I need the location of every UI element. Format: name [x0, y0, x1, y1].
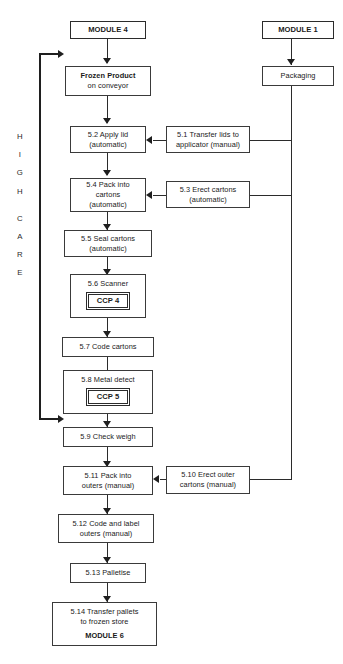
- arrow-left-icon: [146, 136, 152, 144]
- arrow-down-icon: [103, 170, 111, 176]
- node-5-1-transfer-lids[interactable]: 5.1 Transfer lids to applicator (manual): [166, 126, 250, 153]
- node-line: 5.10 Erect outer: [181, 470, 234, 480]
- arrow-down-icon: [103, 118, 111, 124]
- node-line: (automatic): [89, 244, 127, 254]
- zone-letter: C: [13, 210, 27, 228]
- node-line: (automatic): [189, 195, 227, 205]
- zone-label-high-care: H I G H C A R E: [13, 128, 27, 283]
- edge-spine-to-53: [250, 195, 292, 196]
- node-line: 5.2 Apply lid: [88, 130, 129, 140]
- arrow-left-icon: [146, 191, 152, 199]
- zone-letter: H: [13, 128, 27, 146]
- node-line: 5.3 Erect cartons: [180, 185, 237, 195]
- zone-letter-gap: [13, 201, 27, 210]
- zone-letter: E: [13, 264, 27, 282]
- node-line: 5.1 Transfer lids to: [177, 130, 239, 140]
- process-flow-diagram: H I G H C A R E MODULE 4 Frozen Product …: [0, 0, 343, 664]
- node-line: outers (manual): [82, 481, 135, 491]
- node-5-5-seal-cartons[interactable]: 5.5 Seal cartons (automatic): [64, 230, 152, 257]
- return-loop-top-arrow-icon: [58, 50, 64, 58]
- zone-letter: H: [13, 183, 27, 201]
- edge-spine-to-510: [250, 479, 292, 480]
- edge-510-to-511: [160, 479, 166, 480]
- node-line: 5.5 Seal cartons: [81, 234, 135, 244]
- edge-spine-to-51: [250, 140, 292, 141]
- node-line: Frozen Product: [81, 71, 136, 81]
- node-line: (automatic): [89, 200, 127, 210]
- ccp-5-label: CCP 5: [88, 390, 128, 404]
- zone-letter: R: [13, 246, 27, 264]
- node-5-13-palletise[interactable]: 5.13 Palletise: [70, 563, 146, 583]
- zone-letter: I: [13, 146, 27, 164]
- node-line: 5.7 Code cartons: [79, 342, 136, 352]
- node-line: applicator (manual): [176, 140, 240, 150]
- node-line: cartons (manual): [180, 480, 236, 490]
- node-frozen-product[interactable]: Frozen Product on conveyor: [65, 66, 151, 96]
- node-line: 5.11 Pack into: [85, 471, 132, 481]
- arrow-down-icon: [287, 59, 295, 65]
- return-loop-top-horizontal: [39, 53, 60, 55]
- return-loop-vertical: [39, 53, 41, 419]
- ccp-4-badge: CCP 4: [86, 292, 130, 310]
- node-5-3-erect-cartons[interactable]: 5.3 Erect cartons (automatic): [166, 181, 250, 208]
- node-line: 5.9 Check weigh: [80, 432, 135, 442]
- node-line: on conveyor: [88, 81, 129, 91]
- edge-53-to-54: [153, 195, 166, 196]
- node-line: MODULE 4: [88, 25, 128, 35]
- return-loop-bottom-arrow-icon: [58, 415, 64, 423]
- node-line: 5.8 Metal detect: [81, 375, 134, 385]
- node-line: 5.6 Scanner: [88, 279, 128, 289]
- node-line: 5.13 Palletise: [85, 568, 130, 578]
- node-5-6-scanner[interactable]: 5.6 Scanner CCP 4: [70, 274, 146, 318]
- node-5-4-pack-into-cartons[interactable]: 5.4 Pack into cartons (automatic): [70, 178, 146, 212]
- node-line: 5.14 Transfer pallets: [70, 607, 138, 617]
- node-line: MODULE 1: [278, 25, 318, 35]
- node-module-1[interactable]: MODULE 1: [262, 21, 334, 39]
- node-line-module-6: MODULE 6: [85, 631, 124, 641]
- node-packaging[interactable]: Packaging: [262, 66, 334, 86]
- zone-letter: G: [13, 164, 27, 182]
- node-5-11-pack-into-outers[interactable]: 5.11 Pack into outers (manual): [63, 466, 153, 495]
- node-line: to frozen store: [81, 617, 129, 627]
- node-5-10-erect-outer-cartons[interactable]: 5.10 Erect outer cartons (manual): [166, 466, 250, 494]
- node-5-12-code-and-label-outers[interactable]: 5.12 Code and label outers (manual): [58, 514, 154, 543]
- node-line: 5.12 Code and label: [72, 519, 139, 529]
- node-5-14-transfer-pallets[interactable]: 5.14 Transfer pallets to frozen store MO…: [52, 602, 157, 646]
- node-line: 5.4 Pack into: [86, 180, 129, 190]
- node-line: Packaging: [281, 71, 316, 81]
- ccp-5-badge: CCP 5: [86, 388, 130, 406]
- arrow-down-icon: [103, 58, 111, 64]
- node-5-9-check-weigh[interactable]: 5.9 Check weigh: [63, 427, 153, 447]
- zone-letter: A: [13, 228, 27, 246]
- edge-51-to-52: [153, 140, 166, 141]
- ccp-4-label: CCP 4: [88, 294, 128, 308]
- node-line: cartons: [96, 190, 121, 200]
- node-5-2-apply-lid[interactable]: 5.2 Apply lid (automatic): [70, 126, 146, 153]
- return-loop-bottom-horizontal: [39, 418, 60, 420]
- node-line: outers (manual): [80, 529, 133, 539]
- node-5-8-metal-detect[interactable]: 5.8 Metal detect CCP 5: [63, 370, 153, 414]
- arrow-left-icon: [153, 475, 159, 483]
- packaging-supply-spine: [291, 86, 292, 479]
- node-line: (automatic): [89, 140, 127, 150]
- node-5-7-code-cartons[interactable]: 5.7 Code cartons: [62, 337, 154, 357]
- node-module-4[interactable]: MODULE 4: [70, 21, 146, 39]
